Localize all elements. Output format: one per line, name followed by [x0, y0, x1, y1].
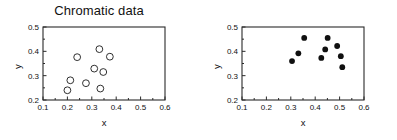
x-tick-label-left-0: 0.1: [37, 103, 49, 112]
data-point-right-7: [338, 53, 344, 59]
x-tick-label-left-2: 0.3: [86, 103, 98, 112]
data-point-right-5: [325, 35, 331, 41]
x-tick-label-right-4: 0.5: [334, 103, 346, 112]
data-point-right-3: [318, 55, 324, 61]
x-tick-label-left-4: 0.5: [135, 103, 147, 112]
data-point-right-4: [322, 46, 328, 52]
y-axis-label-left: y: [12, 64, 23, 69]
data-point-right-0: [289, 58, 295, 64]
x-tick-label-left-5: 0.6: [159, 103, 171, 112]
y-tick-label-left-1: 0.3: [28, 72, 40, 81]
y-tick-label-right-3: 0.5: [227, 23, 239, 32]
x-tick-label-right-2: 0.3: [285, 103, 297, 112]
y-tick-label-right-1: 0.3: [227, 72, 239, 81]
y-axis-label-right: y: [211, 64, 222, 69]
y-tick-label-left-2: 0.4: [28, 47, 40, 56]
y-tick-label-right-2: 0.4: [227, 47, 239, 56]
chart-panel-left: Chromatic data 0.10.20.30.40.50.60.20.30…: [0, 0, 198, 140]
data-point-right-2: [301, 35, 307, 41]
x-axis-label-right: x: [301, 117, 306, 128]
data-point-right-8: [339, 64, 345, 70]
y-tick-label-left-3: 0.5: [28, 23, 40, 32]
x-tick-label-left-3: 0.4: [111, 103, 123, 112]
chart-panel-right: 0.10.20.30.40.50.60.20.30.40.5xy: [199, 0, 397, 140]
x-tick-label-right-3: 0.4: [310, 103, 322, 112]
scatter-plot-right: 0.10.20.30.40.50.60.20.30.40.5xy: [199, 0, 397, 140]
figure-root: Chromatic data 0.10.20.30.40.50.60.20.30…: [0, 0, 397, 140]
y-tick-label-left-0: 0.2: [28, 96, 40, 105]
data-point-right-6: [334, 43, 340, 49]
y-tick-label-right-0: 0.2: [227, 96, 239, 105]
data-point-right-1: [295, 50, 301, 56]
scatter-plot-left: 0.10.20.30.40.50.60.20.30.40.5xy: [0, 0, 198, 140]
x-tick-label-right-0: 0.1: [236, 103, 248, 112]
x-tick-label-left-1: 0.2: [62, 103, 74, 112]
x-tick-label-right-1: 0.2: [261, 103, 273, 112]
x-axis-label-left: x: [102, 117, 107, 128]
x-tick-label-right-5: 0.6: [358, 103, 370, 112]
